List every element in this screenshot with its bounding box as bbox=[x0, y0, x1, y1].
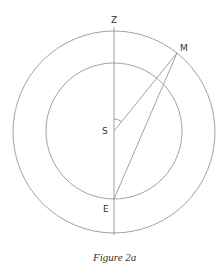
line-sm bbox=[114, 53, 177, 131]
angle-arc bbox=[114, 119, 122, 122]
label-e: E bbox=[103, 204, 109, 214]
figure-caption: Figure 2a bbox=[92, 251, 137, 263]
label-s: S bbox=[102, 126, 108, 136]
figure-diagram: Z M S E Figure 2a bbox=[0, 0, 223, 265]
line-em bbox=[114, 53, 177, 199]
label-z: Z bbox=[111, 15, 117, 25]
label-m: M bbox=[180, 43, 188, 53]
